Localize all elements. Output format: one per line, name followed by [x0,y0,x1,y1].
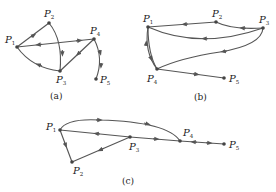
node-a-p1 [15,45,19,49]
arrow-icon [100,50,101,53]
node-b-p1 [146,25,150,29]
label-a-p4: P4 [89,25,101,37]
label-c-p1: P1 [45,121,56,133]
edge-b-p3-p4 [157,28,263,69]
label-a-p3: P3 [55,74,67,86]
edge-a-p2-p3 [49,23,61,71]
node-a-p4 [92,37,96,41]
node-a-p3 [58,69,62,73]
caption-c: (c) [122,176,134,186]
arrow-icon [193,74,197,75]
figure-a: P1 P2 P3 P4 P5 (a) [4,8,111,101]
node-c-p1 [58,128,62,132]
arrow-icon [223,51,227,52]
edge-a-p4-p5 [94,39,100,79]
label-b-p5: P5 [228,73,240,85]
arrow-icon [65,142,66,146]
caption-a: (a) [50,91,62,101]
node-b-p2 [214,20,218,24]
node-c-p4 [178,139,182,143]
graph-figures: P1 P2 P3 P4 P5 (a) P1 P2 P [0,0,276,192]
edge-c-p4-p5 [180,141,224,144]
node-b-p4 [155,67,159,71]
edge-b-p4-p5 [157,69,224,78]
node-b-p5 [222,76,226,80]
edge-a-p1-p4 [17,39,94,47]
label-a-p5: P5 [99,74,111,86]
edge-b-p3-p2 [216,22,263,28]
edge-a-p4-p3 [60,39,94,71]
caption-b: (b) [194,92,207,102]
edge-c-p1-p4 [60,120,180,141]
label-c-p2: P2 [72,165,83,177]
edge-b-p2-p1 [148,22,216,27]
node-c-p5 [222,142,226,146]
node-a-p2 [47,21,51,25]
label-c-p4: P4 [182,127,194,139]
figure-b: P1 P2 P3 P4 P5 (b) [142,8,270,102]
label-a-p1: P1 [4,34,15,46]
node-b-p3 [261,26,265,30]
node-a-p5 [94,77,98,81]
label-c-p3: P3 [128,141,140,153]
edge-c-p3-p1 [60,130,130,137]
label-c-p5: P5 [228,139,240,151]
label-b-p3: P3 [258,14,270,26]
label-b-p2: P2 [211,8,222,20]
label-b-p1: P1 [142,13,153,25]
label-b-p4: P4 [146,73,158,85]
label-a-p2: P2 [43,8,54,20]
arrow-icon [78,51,81,54]
node-c-p3 [128,135,132,139]
edge-c-p1-p2 [60,130,72,162]
node-c-p2 [70,160,74,164]
figure-c: P1 P2 P3 P4 P5 (c) [45,120,240,186]
edge-a-p1-p2 [17,23,49,47]
edge-a-p3-p1 [17,47,60,71]
